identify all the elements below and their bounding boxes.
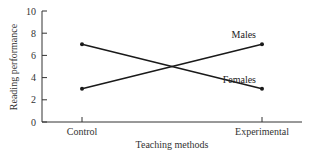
x-tick-label: Control <box>67 126 98 137</box>
y-tick-label: 10 <box>26 6 36 17</box>
series-label-males: Males <box>232 29 257 40</box>
x-axis-title: Teaching methods <box>136 139 209 150</box>
series-label-females: Females <box>223 74 256 85</box>
y-axis-title: Reading performance <box>8 23 19 110</box>
data-point <box>260 87 264 91</box>
y-tick-label: 6 <box>31 50 36 61</box>
data-point <box>80 87 84 91</box>
y-tick-label: 4 <box>31 72 36 83</box>
y-axis-ticks: 0246810 <box>26 6 47 128</box>
series-lines: MalesFemales <box>80 29 264 90</box>
y-tick-label: 8 <box>31 28 36 39</box>
x-tick-label: Experimental <box>235 126 289 137</box>
y-tick-label: 0 <box>31 117 36 128</box>
y-tick-label: 2 <box>31 94 36 105</box>
data-point <box>80 42 84 46</box>
x-axis-ticks: ControlExperimental <box>67 117 289 137</box>
data-point <box>260 42 264 46</box>
line-chart: 0246810 ControlExperimental MalesFemales… <box>0 0 314 159</box>
